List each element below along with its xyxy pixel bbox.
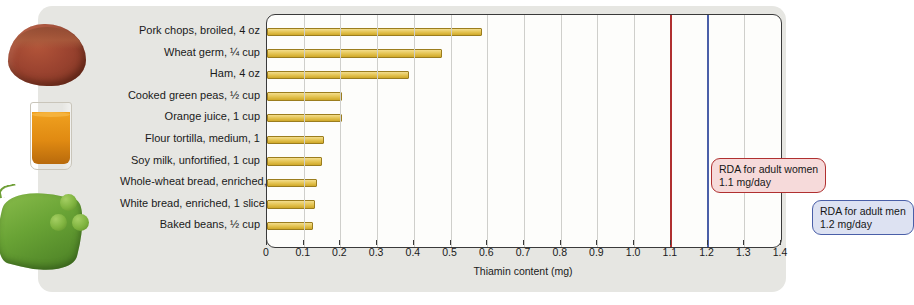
bar — [267, 92, 342, 101]
bar-chart: Pork chops, broiled, 4 ozWheat germ, ¼ c… — [120, 6, 788, 296]
bar — [267, 157, 322, 166]
tick-label: 0.8 — [552, 246, 567, 258]
tick-mark — [303, 240, 304, 245]
rda-women-line1: RDA for adult women — [719, 163, 818, 176]
category-label: Pork chops, broiled, 4 oz — [120, 20, 266, 42]
tick-mark — [596, 240, 597, 245]
plot-area-wrapper: RDA for adult women 1.1 mg/day RDA for a… — [266, 14, 780, 246]
category-label: Soy milk, unfortified, 1 cup — [120, 150, 266, 172]
rda-women-line — [670, 15, 673, 247]
gridline — [561, 15, 562, 247]
pea-icon — [50, 214, 67, 231]
tick-mark — [413, 240, 414, 245]
gridline — [377, 15, 378, 247]
gridline — [340, 15, 341, 247]
tick-label: 0.4 — [406, 246, 421, 258]
gridline — [744, 15, 745, 247]
tick-label: 1.2 — [699, 246, 714, 258]
category-label: Wheat germ, ¼ cup — [120, 42, 266, 64]
bar — [267, 114, 342, 123]
tick-mark — [670, 240, 671, 245]
tick-label: 0.2 — [332, 246, 347, 258]
tick-mark — [707, 240, 708, 245]
tick-label: 0 — [263, 246, 269, 258]
gridline — [451, 15, 452, 247]
gridline — [597, 15, 598, 247]
category-label: Flour tortilla, medium, 1 — [120, 128, 266, 150]
x-axis-title: Thiamin content (mg) — [266, 265, 780, 277]
orange-juice-photo — [30, 102, 72, 170]
tick-label: 1.1 — [663, 246, 678, 258]
pea-icon — [72, 214, 89, 231]
tick-mark — [266, 240, 267, 245]
tick-label: 0.1 — [295, 246, 310, 258]
tick-mark — [743, 240, 744, 245]
rda-men-line — [707, 15, 710, 247]
tick-mark — [339, 240, 340, 245]
gridline — [414, 15, 415, 247]
gridline — [781, 15, 782, 247]
category-label: Whole-wheat bread, enriched, 1 slice — [120, 171, 266, 193]
tick-mark — [450, 240, 451, 245]
tick-label: 1.4 — [773, 246, 788, 258]
bar — [267, 49, 442, 58]
rda-women-callout: RDA for adult women 1.1 mg/day — [711, 158, 826, 193]
tick-mark — [633, 240, 634, 245]
gridline — [487, 15, 488, 247]
tick-mark — [486, 240, 487, 245]
tick-mark — [523, 240, 524, 245]
juice-fill — [32, 112, 70, 164]
tick-label: 1.0 — [626, 246, 641, 258]
tick-label: 1.3 — [736, 246, 751, 258]
green-peas-photo — [0, 183, 90, 279]
gridline — [304, 15, 305, 247]
plot-area — [266, 14, 782, 248]
tick-mark — [560, 240, 561, 245]
tick-label: 0.9 — [589, 246, 604, 258]
ham-photo — [8, 24, 86, 86]
tick-label: 0.5 — [442, 246, 457, 258]
gridline — [634, 15, 635, 247]
rda-men-callout: RDA for adult men 1.2 mg/day — [812, 200, 914, 235]
x-axis-ticks: 00.10.20.30.40.50.60.70.80.91.01.11.21.3… — [266, 246, 780, 262]
food-photo-group — [0, 14, 120, 286]
category-label: Baked beans, ½ cup — [120, 214, 266, 236]
bar — [267, 179, 317, 188]
gridline — [524, 15, 525, 247]
pea-icon — [60, 194, 77, 211]
rda-men-line1: RDA for adult men — [820, 205, 906, 218]
tick-label: 0.6 — [479, 246, 494, 258]
bar — [267, 200, 315, 209]
tick-mark — [376, 240, 377, 245]
category-axis-labels: Pork chops, broiled, 4 ozWheat germ, ¼ c… — [120, 20, 266, 236]
rda-women-line2: 1.1 mg/day — [719, 176, 818, 189]
bar — [267, 136, 324, 145]
category-label: Cooked green peas, ½ cup — [120, 85, 266, 107]
bar — [267, 222, 313, 231]
category-label: Ham, 4 oz — [120, 63, 266, 85]
tick-label: 0.7 — [516, 246, 531, 258]
category-label: White bread, enriched, 1 slice — [120, 193, 266, 215]
tick-label: 0.3 — [369, 246, 384, 258]
rda-men-line2: 1.2 mg/day — [820, 218, 906, 231]
tick-mark — [780, 240, 781, 245]
bar — [267, 71, 409, 80]
category-label: Orange juice, 1 cup — [120, 106, 266, 128]
